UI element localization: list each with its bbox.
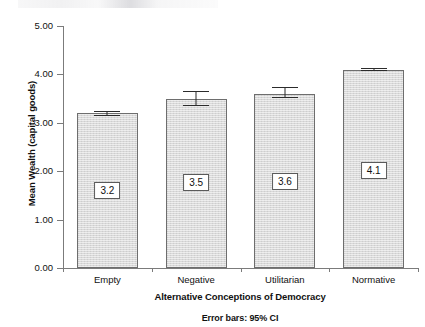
x-tick-mark (418, 268, 419, 272)
plot-area: 3.23.53.64.1 (63, 26, 418, 268)
x-axis-title: Alternative Conceptions of Democracy (55, 291, 425, 302)
error-bar-cap-upper (94, 111, 120, 112)
bar-value-label: 3.6 (272, 173, 298, 190)
x-tick-mark (63, 268, 64, 272)
x-category-label: Utilitarian (241, 274, 330, 285)
bar-value-label: 3.5 (183, 174, 209, 191)
x-tick-mark (241, 268, 242, 272)
y-tick-label: 3.00 (13, 118, 53, 128)
error-bar-footnote: Error bars: 95% CI (55, 313, 425, 323)
scan-artifact (18, 0, 218, 8)
bar-value-label: 4.1 (361, 162, 387, 179)
bar-group: 4.1 (343, 26, 404, 268)
y-tick-label: 4.00 (13, 69, 53, 79)
y-tick-label: 0.00 (13, 263, 53, 273)
error-bar-cap-upper (183, 91, 209, 92)
x-category-label: Negative (152, 274, 241, 285)
x-category-label: Normative (329, 274, 418, 285)
error-bar-cap-lower (272, 97, 298, 98)
error-bar-cap-upper (361, 68, 387, 69)
error-bar-cap-lower (183, 105, 209, 106)
bar-value-label: 3.2 (94, 182, 120, 199)
error-bar-cap-upper (272, 87, 298, 88)
x-tick-mark (152, 268, 153, 272)
bar-chart-figure: Mean Wealth (capital goods) 0.001.002.00… (0, 0, 425, 327)
x-category-label: Empty (63, 274, 152, 285)
y-tick-label: 5.00 (13, 21, 53, 31)
error-bar-line (196, 91, 197, 105)
error-bar-cap-lower (361, 70, 387, 71)
error-bar-cap-lower (94, 115, 120, 116)
bar-group: 3.6 (254, 26, 315, 268)
error-bar-line (284, 87, 285, 97)
y-tick-label: 1.00 (13, 215, 53, 225)
x-tick-mark (329, 268, 330, 272)
bar-group: 3.2 (77, 26, 138, 268)
y-tick-label: 2.00 (13, 166, 53, 176)
bar-group: 3.5 (166, 26, 227, 268)
